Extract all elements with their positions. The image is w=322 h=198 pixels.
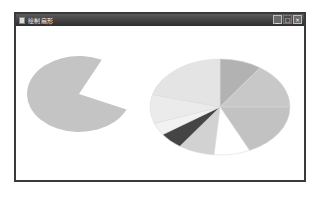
close-button[interactable]: × [293,15,302,24]
window-title: 绘制扇形 [28,16,53,25]
drawing-canvas [16,26,304,180]
app-window: 绘制扇形 _ □ × [14,12,306,182]
window-controls: _ □ × [273,15,302,24]
pie-sector [27,56,127,132]
right-pie-chart [150,59,290,155]
maximize-button[interactable]: □ [283,15,292,24]
left-pie-sector [27,56,127,132]
pie-canvas [16,26,304,182]
title-bar[interactable]: 绘制扇形 _ □ × [16,14,304,26]
app-icon [19,17,25,24]
minimize-button[interactable]: _ [273,15,282,24]
